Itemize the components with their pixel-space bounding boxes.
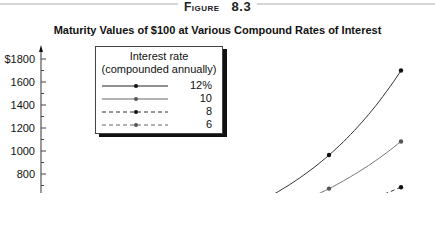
series-line-10 (41, 141, 401, 193)
legend-swatch-dashed-icon (102, 118, 172, 131)
data-point (327, 153, 331, 157)
legend-entry-6: 6 (102, 118, 216, 131)
legend-label: 10 (200, 92, 212, 105)
y-tick-label: 1600 (0, 76, 35, 88)
legend-entry-12: 12% (102, 79, 216, 92)
y-tick-label: 1200 (0, 122, 35, 134)
y-tick-label: $1800 (0, 53, 35, 65)
data-point (399, 139, 403, 143)
legend-entry-10: 10 (102, 92, 216, 105)
legend: Interest rate (compounded annually) 12% … (95, 46, 223, 134)
y-tick-label: 800 (0, 168, 35, 180)
data-point (399, 68, 403, 72)
y-tick-label: 1400 (0, 99, 35, 111)
legend-swatch-dashed-icon (102, 105, 172, 118)
legend-label: 12% (190, 79, 212, 92)
y-tick-label: 1000 (0, 145, 35, 157)
data-point (327, 186, 331, 190)
legend-label: 8 (206, 105, 212, 118)
legend-label: 6 (206, 118, 212, 131)
legend-title-line2: (compounded annually) (96, 63, 222, 76)
y-axis-arrow-icon (39, 45, 43, 52)
legend-entry-8: 8 (102, 105, 216, 118)
legend-swatch-solid-icon (102, 92, 172, 105)
series-line-8 (41, 187, 401, 193)
legend-title-line1: Interest rate (96, 50, 222, 63)
data-point (399, 185, 403, 189)
legend-swatch-solid-icon (102, 79, 172, 92)
